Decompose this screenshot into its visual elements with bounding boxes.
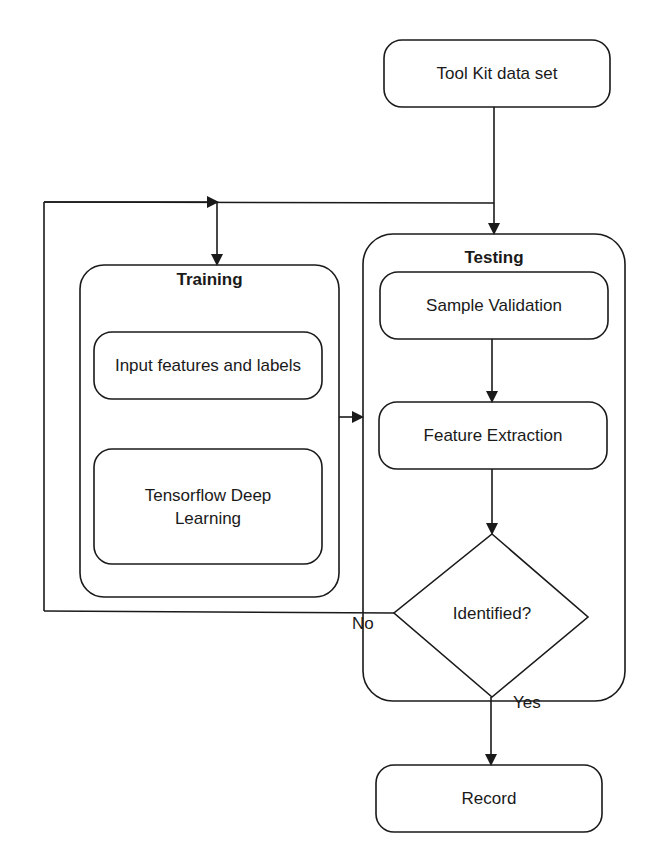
training-title: Training	[80, 270, 339, 290]
record-label: Record	[376, 765, 602, 832]
testing-title: Testing	[363, 248, 625, 268]
edge-no-bottom	[44, 611, 394, 613]
edge-label-no: No	[352, 614, 374, 634]
sample-validation-label: Sample Validation	[380, 272, 608, 339]
identified-label: Identified?	[420, 598, 564, 628]
tensorflow-label: Tensorflow Deep Learning	[110, 449, 306, 564]
feature-extraction-label: Feature Extraction	[379, 402, 607, 469]
toolkit-label: Tool Kit data set	[384, 40, 610, 107]
input-features-label: Input features and labels	[110, 332, 306, 399]
edge-label-yes: Yes	[513, 693, 541, 713]
flowchart-canvas: Tool Kit data set Training Input feature…	[0, 0, 656, 860]
